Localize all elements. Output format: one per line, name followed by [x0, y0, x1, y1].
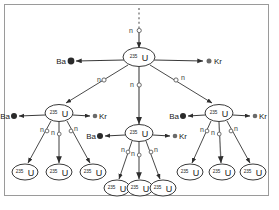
uranium-mass-number: 235 [130, 130, 138, 135]
neutron-path-right [67, 121, 90, 163]
barium-particle [68, 58, 75, 65]
barium-arrow [188, 115, 205, 116]
nucleus-u3b: 235 U [46, 159, 72, 181]
uranium-mass-number: 235 [108, 185, 116, 190]
neutron-label: n [51, 129, 55, 136]
uranium-symbol: U [142, 53, 149, 63]
krypton-arrow [73, 115, 90, 116]
neutron-label: n [181, 74, 185, 81]
uranium-symbol: U [166, 184, 173, 194]
neutron-path-right [227, 121, 250, 163]
neutron-marker [137, 28, 141, 32]
neutron-label: n [74, 125, 78, 132]
neutron-label: n [154, 146, 158, 153]
krypton-particle [93, 114, 98, 119]
barium-particle [11, 113, 17, 119]
barium-label: Ba [56, 57, 66, 66]
krypton-label: Kr [99, 112, 107, 121]
uranium-mass-number: 235 [181, 169, 189, 174]
neutron-marker [137, 83, 141, 87]
neutron-marker [57, 132, 61, 136]
neutron-label: n [97, 76, 101, 83]
neutron-label: n [40, 126, 44, 133]
nucleus-u3f: 235 U [150, 175, 176, 197]
nucleus-u3c: 235 U [80, 159, 106, 181]
uranium-symbol: U [256, 168, 263, 178]
uranium-mass-number: 235 [154, 185, 162, 190]
neutron-path-center [219, 122, 221, 163]
uranium-symbol: U [28, 168, 35, 178]
uranium-mass-number: 235 [50, 110, 58, 115]
krypton-arrow [233, 115, 250, 116]
neutron-label: n [211, 129, 215, 136]
uranium-symbol: U [96, 168, 103, 178]
barium-particle [97, 133, 103, 139]
nucleus-u3e: 235 U [127, 175, 153, 197]
chain-reaction-diagram: n Ba Kr n n n 235 U [0, 0, 279, 210]
uranium-symbol: U [120, 184, 127, 194]
uranium-symbol: U [142, 129, 149, 139]
uranium-mass-number: 235 [213, 169, 221, 174]
neutron-marker [102, 78, 106, 82]
krypton-label: Kr [214, 57, 222, 66]
uranium-mass-number: 235 [210, 110, 218, 115]
uranium-mass-number: 235 [130, 54, 138, 59]
neutron-marker [174, 78, 178, 82]
neutron-marker [45, 129, 49, 133]
neutron-path-left [66, 65, 128, 103]
neutron-path-right [150, 65, 212, 103]
neutron-marker [137, 153, 141, 157]
uranium-mass-number: 235 [84, 169, 92, 174]
uranium-mass-number: 235 [50, 169, 58, 174]
neutron-label: n [131, 150, 135, 157]
uranium-symbol: U [143, 184, 150, 194]
uranium-symbol: U [193, 168, 200, 178]
krypton-label: Kr [259, 112, 267, 121]
neutron-marker [205, 129, 209, 133]
nucleus-u3h: 235 U [209, 159, 235, 181]
uranium-symbol: U [62, 109, 69, 119]
fission-chain-reaction-figure: n Ba Kr n n n 235 U [0, 0, 279, 210]
nucleus-u1: Ba Kr n n n 235 U [56, 44, 222, 125]
krypton-arrow [153, 135, 170, 136]
barium-label: Ba [86, 132, 96, 141]
uranium-mass-number: 235 [16, 169, 24, 174]
neutron-label: n [129, 27, 133, 34]
neutron-marker [217, 132, 221, 136]
barium-particle [180, 113, 186, 119]
nucleus-u3d: 235 U [104, 175, 130, 197]
barium-arrow [105, 135, 125, 136]
barium-label: Ba [169, 112, 179, 121]
barium-label: Ba [0, 112, 10, 121]
neutron-marker [69, 129, 73, 133]
krypton-particle [207, 59, 212, 64]
neutron-label: n [200, 126, 204, 133]
incoming-neutron-path: n [129, 8, 141, 48]
uranium-symbol: U [222, 109, 229, 119]
barium-arrow [76, 60, 124, 61]
uranium-symbol: U [62, 168, 69, 178]
neutron-marker [149, 150, 153, 154]
uranium-symbol: U [225, 168, 232, 178]
nucleus-u3a: 235 U [12, 159, 38, 181]
krypton-label: Kr [179, 132, 187, 141]
krypton-particle [173, 134, 178, 139]
neutron-marker [229, 129, 233, 133]
neutron-label: n [234, 125, 238, 132]
neutron-marker [126, 150, 130, 154]
uranium-mass-number: 235 [244, 169, 252, 174]
barium-arrow [19, 115, 45, 116]
krypton-particle [253, 114, 258, 119]
neutron-label: n [121, 146, 125, 153]
uranium-mass-number: 235 [131, 185, 139, 190]
neutron-label: n [130, 81, 134, 88]
nucleus-u3i: 235 U [240, 159, 266, 181]
nucleus-u3g: 235 U [177, 159, 203, 181]
krypton-arrow [154, 60, 203, 61]
